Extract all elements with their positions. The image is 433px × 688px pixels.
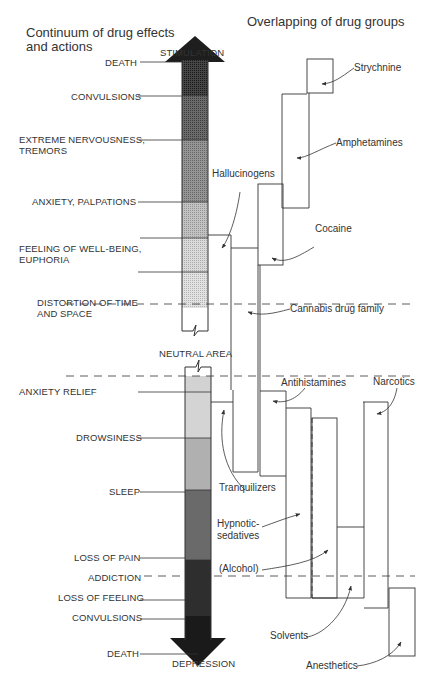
box-amphetamines	[282, 93, 309, 208]
box-anesthetics	[389, 588, 415, 656]
effect-loss-of-feeling: LOSS OF FEELING	[58, 592, 144, 603]
drug-amphetamines: Amphetamines	[336, 137, 403, 149]
drug-antihistamines: Antihistamines	[281, 377, 346, 389]
drug-solvents: Solvents	[270, 630, 308, 642]
drug-strychnine: Strychnine	[354, 62, 401, 74]
drug-continuum-diagram	[0, 0, 433, 688]
box-narcotics	[363, 402, 388, 608]
drug-narcotics: Narcotics	[373, 376, 415, 388]
effect-loss-of-pain: LOSS OF PAIN	[74, 552, 141, 563]
effect-anxiety-relief: ANXIETY RELIEF	[19, 386, 97, 397]
effect-distortion: DISTORTION OF TIME AND SPACE	[37, 297, 138, 319]
drug-tranquilizers: Tranquilizers	[219, 482, 276, 494]
neutral-area-label: NEUTRAL AREA	[159, 348, 232, 359]
depression-arrow	[170, 360, 226, 666]
effect-sleep: SLEEP	[109, 486, 140, 497]
effect-anxiety-palpations: ANXIETY, PALPATIONS	[32, 196, 136, 207]
drug-hallucinogens: Hallucinogens	[212, 168, 275, 180]
effect-well-being: FEELING OF WELL-BEING, EUPHORIA	[19, 243, 142, 265]
drug-hypnotic-sedatives: Hypnotic- sedatives	[217, 518, 259, 542]
effect-convulsions-bottom: CONVULSIONS	[72, 612, 142, 623]
effect-convulsions-top: CONVULSIONS	[71, 91, 141, 102]
depression-label: DEPRESSION	[172, 658, 235, 669]
stimulation-arrow	[165, 36, 225, 336]
drug-alcohol: (Alcohol)	[219, 563, 258, 575]
effect-death-top: DEATH	[105, 57, 137, 68]
box-alcohol	[312, 418, 337, 598]
drug-cannabis: Cannabis drug family	[290, 303, 384, 315]
effect-extreme-nervousness: EXTREME NERVOUSNESS, TREMORS	[19, 134, 145, 156]
drug-cocaine: Cocaine	[315, 223, 352, 235]
box-solvents	[312, 402, 364, 598]
effect-addiction: ADDICTION	[88, 572, 141, 583]
drug-anesthetics: Anesthetics	[306, 660, 358, 672]
box-hypnotic-sedatives	[286, 408, 311, 598]
box-antihistamines	[260, 265, 286, 476]
effect-drowsiness: DROWSINESS	[76, 432, 142, 443]
box-cocaine	[258, 184, 283, 265]
stimulation-label: STIMULATION	[160, 47, 224, 58]
effect-death-bottom: DEATH	[107, 648, 139, 659]
box-cannabis	[231, 248, 258, 472]
box-strychnine	[307, 59, 333, 93]
